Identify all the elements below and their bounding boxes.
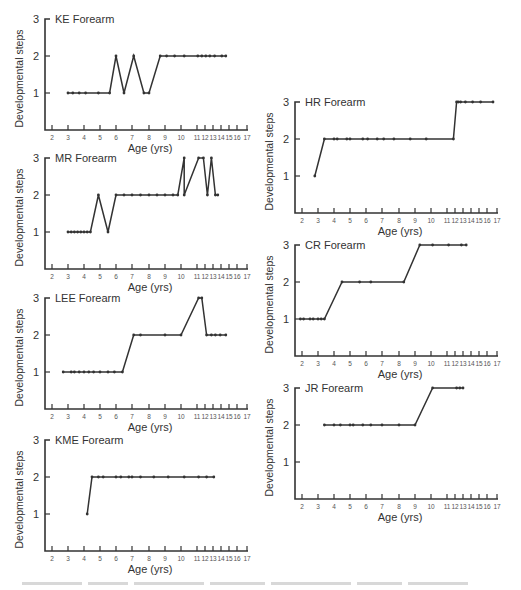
x-tick-label: 15 <box>225 413 233 420</box>
x-tick-label: 14 <box>217 134 225 141</box>
axes <box>295 388 498 499</box>
data-point <box>119 476 122 479</box>
data-point <box>78 371 81 374</box>
y-tick-label: 2 <box>33 50 39 62</box>
x-tick-label: 13 <box>209 413 217 420</box>
x-tick-label: 2 <box>50 134 54 141</box>
data-point <box>113 371 116 374</box>
data-point <box>180 334 183 337</box>
data-point <box>78 92 81 95</box>
x-tick-label: 12 <box>451 217 459 224</box>
x-tick-label: 17 <box>493 503 501 510</box>
chart-title: JR Forearm <box>305 382 363 394</box>
data-point <box>62 371 65 374</box>
chart-title: LEE Forearm <box>55 292 120 304</box>
data-point <box>341 281 344 284</box>
data-point <box>132 55 135 58</box>
x-tick-label: 6 <box>114 413 118 420</box>
data-point <box>83 371 86 374</box>
data-point <box>139 194 142 197</box>
data-point <box>210 334 213 337</box>
data-point <box>398 424 401 427</box>
y-axis-label: Developmental steps <box>13 168 25 266</box>
y-tick-label: 1 <box>283 170 289 182</box>
data-line <box>68 56 226 93</box>
x-tick-label: 5 <box>98 555 102 562</box>
x-tick-label: 12 <box>451 360 459 367</box>
data-point <box>204 55 207 58</box>
y-tick-label: 3 <box>283 239 289 251</box>
data-point <box>216 194 219 197</box>
y-tick-label: 3 <box>33 13 39 25</box>
data-point <box>376 138 379 141</box>
chart-lee-forearm: 123234567891011121314151617Age (yrs)Deve… <box>0 287 260 427</box>
chart-jr-forearm: 123234567891011121314151617Age (yrs)Deve… <box>250 377 510 517</box>
x-tick-label: 2 <box>50 273 54 280</box>
x-tick-label: 10 <box>177 134 185 141</box>
x-tick-label: 9 <box>163 273 167 280</box>
x-tick-label: 15 <box>225 555 233 562</box>
data-point <box>76 231 79 234</box>
x-tick-label: 15 <box>475 503 483 510</box>
y-tick-label: 2 <box>283 133 289 145</box>
data-point <box>358 281 361 284</box>
data-point <box>212 476 215 479</box>
data-point <box>167 476 170 479</box>
chart-title: CR Forearm <box>305 239 366 251</box>
x-tick-label: 3 <box>316 503 320 510</box>
chart-svg: 123234567891011121314151617Age (yrs)Deve… <box>250 377 510 517</box>
x-tick-label: 3 <box>316 360 320 367</box>
data-line <box>315 102 493 176</box>
data-point <box>479 101 482 104</box>
x-tick-label: 9 <box>163 134 167 141</box>
y-tick-label: 1 <box>33 87 39 99</box>
data-point <box>164 334 167 337</box>
data-point <box>462 387 465 390</box>
x-tick-label: 7 <box>130 134 134 141</box>
data-point <box>183 55 186 58</box>
data-point <box>213 55 216 58</box>
chart-svg: 123234567891011121314151617Age (yrs)Deve… <box>0 287 260 427</box>
x-tick-label: 6 <box>364 360 368 367</box>
y-tick-label: 1 <box>283 456 289 468</box>
y-axis-label: Developmental steps <box>263 112 275 210</box>
x-tick-label: 10 <box>427 217 435 224</box>
x-tick-label: 13 <box>209 555 217 562</box>
data-point <box>381 424 384 427</box>
data-point <box>333 424 336 427</box>
data-point <box>205 334 208 337</box>
x-tick-label: 10 <box>427 360 435 367</box>
data-point <box>345 138 348 141</box>
x-tick-label: 3 <box>66 555 70 562</box>
data-point <box>382 138 385 141</box>
data-point <box>84 92 87 95</box>
data-point <box>224 55 227 58</box>
data-point <box>67 92 70 95</box>
data-point <box>165 55 168 58</box>
y-tick-label: 2 <box>33 471 39 483</box>
x-tick-label: 9 <box>413 360 417 367</box>
data-point <box>67 231 70 234</box>
x-tick-label: 11 <box>444 360 451 367</box>
data-point <box>86 231 89 234</box>
data-point <box>73 371 76 374</box>
x-tick-label: 14 <box>467 503 475 510</box>
x-tick-label: 10 <box>177 555 185 562</box>
data-point <box>323 318 326 321</box>
data-point <box>152 476 155 479</box>
data-point <box>447 244 450 247</box>
x-tick-label: 2 <box>50 555 54 562</box>
x-tick-label: 3 <box>316 217 320 224</box>
x-tick-label: 8 <box>147 134 151 141</box>
x-tick-label: 7 <box>130 555 134 562</box>
chart-svg: 123234567891011121314151617Age (yrs)Deve… <box>0 8 260 148</box>
x-tick-label: 7 <box>130 413 134 420</box>
x-tick-label: 14 <box>217 413 225 420</box>
data-point <box>336 138 339 141</box>
data-point <box>492 101 495 104</box>
x-tick-label: 6 <box>114 273 118 280</box>
x-tick-label: 13 <box>209 273 217 280</box>
x-tick-label: 8 <box>397 217 401 224</box>
data-point <box>71 92 74 95</box>
x-tick-label: 17 <box>243 555 251 562</box>
